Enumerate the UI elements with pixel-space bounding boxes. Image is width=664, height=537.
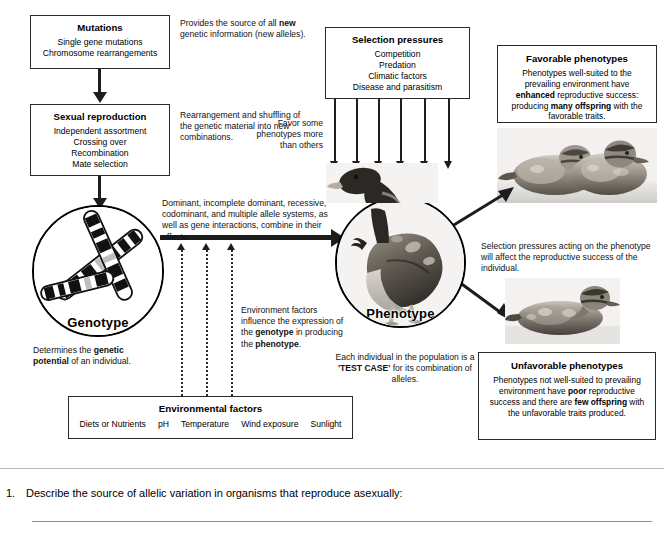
section-divider <box>0 468 664 469</box>
env-note-bold1: genotype <box>255 327 293 337</box>
worksheet-page: Mutations Single gene mutations Chromoso… <box>0 0 664 537</box>
phenotype-circle: Phenotype <box>335 197 466 328</box>
arrowhead-mutations-to-sexual <box>93 92 107 103</box>
unfavorable-bold1: poor <box>568 386 587 396</box>
genotype-annotation-part1: Determines the <box>33 345 94 355</box>
mutations-line-0: Single gene mutations <box>31 37 169 48</box>
selection-pressures-heading: Selection pressures <box>326 34 469 46</box>
sexual-reproduction-heading: Sexual reproduction <box>31 111 169 123</box>
mutations-box: Mutations Single gene mutations Chromoso… <box>30 15 170 69</box>
mutations-line-1: Chromosome rearrangements <box>31 48 169 59</box>
env-item-0: Diets or Nutrients <box>79 419 145 429</box>
two-ducklings-image <box>497 128 657 203</box>
test-case-annotation: Each individual in the population is a '… <box>332 352 478 386</box>
env-item-3: Wind exposure <box>241 419 298 429</box>
genotype-circle: Genotype <box>32 205 164 337</box>
selection-acting-annotation: Selection pressures acting on the phenot… <box>481 241 651 275</box>
testcase-part2: for its combination of alleles. <box>390 363 472 384</box>
env-item-1: pH <box>158 419 169 429</box>
variation-selection-diagram: Mutations Single gene mutations Chromoso… <box>0 0 664 460</box>
genotype-annotation-part2: of an individual. <box>69 356 131 366</box>
sexual-line-0: Independent assortment <box>31 126 169 137</box>
sexual-line-1: Crossing over <box>31 137 169 148</box>
duck-head-image <box>326 163 438 203</box>
favorable-bold2: many offspring <box>551 101 612 111</box>
selection-line-2: Climatic factors <box>326 71 469 82</box>
favor-phenotypes-annotation: Favor some phenotypes more than others <box>238 118 323 152</box>
unfavorable-bold2: few offspring <box>574 397 627 407</box>
selection-line-1: Predation <box>326 60 469 71</box>
mutations-annotation-part1: Provides the source of all <box>180 18 279 28</box>
mutations-heading: Mutations <box>31 22 169 34</box>
favorable-phenotypes-box: Favorable phenotypes Phenotypes well-sui… <box>497 45 657 123</box>
genotype-label: Genotype <box>34 315 162 330</box>
selection-pressures-box: Selection pressures Competition Predatio… <box>325 27 470 99</box>
mutations-annotation-part2: genetic information (new alleles). <box>180 29 306 39</box>
mutations-annotation-bold: new <box>279 18 296 28</box>
question-number: 1. <box>6 487 15 499</box>
question-text: Describe the source of allelic variation… <box>26 487 626 499</box>
environmental-factors-box: Environmental factors Diets or Nutrients… <box>68 396 353 439</box>
env-item-4: Sunlight <box>310 419 341 429</box>
env-note-bold2: phenotype <box>255 339 298 349</box>
environmental-factors-heading: Environmental factors <box>69 403 352 416</box>
answer-line[interactable] <box>32 521 652 522</box>
sexual-line-2: Recombination <box>31 148 169 159</box>
env-item-2: Temperature <box>181 419 229 429</box>
favorable-part1: Phenotypes well-suited to the prevailing… <box>522 68 631 89</box>
unfavorable-phenotypes-heading: Unfavorable phenotypes <box>487 360 647 372</box>
favorable-bold1: enhanced <box>516 90 555 100</box>
selection-line-0: Competition <box>326 49 469 60</box>
environmental-factors-items: Diets or NutrientspHTemperatureWind expo… <box>73 419 347 430</box>
testcase-bold: 'TEST CASE' <box>338 363 390 373</box>
phenotype-label: Phenotype <box>337 306 464 321</box>
env-note-part3: . <box>299 339 301 349</box>
sexual-line-3: Mate selection <box>31 159 169 170</box>
single-duckling-image <box>505 278 620 344</box>
favorable-phenotypes-heading: Favorable phenotypes <box>506 53 648 65</box>
genotype-annotation: Determines the genetic potential of an i… <box>33 345 161 367</box>
allele-systems-annotation: Dominant, incomplete dominant, recessive… <box>162 198 342 243</box>
selection-line-3: Disease and parasitism <box>326 82 469 93</box>
mutations-annotation: Provides the source of all new genetic i… <box>180 18 320 40</box>
unfavorable-phenotypes-box: Unfavorable phenotypes Phenotypes not we… <box>478 352 656 440</box>
sexual-reproduction-box: Sexual reproduction Independent assortme… <box>30 104 170 176</box>
testcase-part1: Each individual in the population is a <box>335 352 474 362</box>
